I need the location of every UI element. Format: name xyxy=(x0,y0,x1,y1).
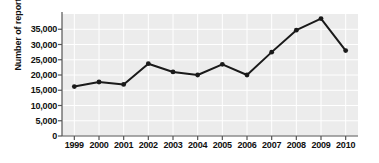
x-axis-tick-labels: 1999200020012002200320042005200620072008… xyxy=(0,0,379,163)
x-axis-tick-label: 2010 xyxy=(329,140,363,151)
line-chart-figure: Number of reported cases 05,00010,00015,… xyxy=(0,0,379,163)
